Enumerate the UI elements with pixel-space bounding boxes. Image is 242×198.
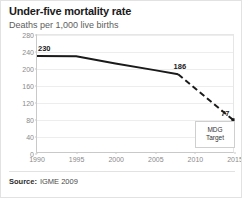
x-tick-mark bbox=[76, 152, 77, 154]
x-tick-label: 1990 bbox=[29, 156, 45, 163]
data-point-label: 77 bbox=[221, 110, 229, 118]
chart-subtitle: Deaths per 1,000 live births bbox=[9, 19, 235, 31]
source-label: Source: bbox=[9, 177, 37, 186]
chart-card: Under-five mortality rate Deaths per 1,0… bbox=[0, 0, 242, 198]
mdg-callout-line-1: MDG bbox=[198, 126, 232, 134]
x-tick-mark bbox=[116, 152, 117, 154]
source-value: IGME 2009 bbox=[40, 177, 78, 186]
page-title: Under-five mortality rate bbox=[9, 5, 235, 18]
x-tick-mark bbox=[37, 152, 38, 154]
x-tick-label: 2015 bbox=[227, 156, 242, 163]
mdg-target-callout: MDG Target bbox=[195, 121, 235, 148]
x-tick-label: 2005 bbox=[148, 156, 164, 163]
y-tick-label: 240 bbox=[22, 49, 34, 56]
x-tick-label: 2000 bbox=[108, 156, 124, 163]
y-tick-label: 280 bbox=[22, 32, 34, 39]
x-tick-label: 1995 bbox=[69, 156, 85, 163]
y-tick-label: 200 bbox=[22, 66, 34, 73]
plot-wrapper: 04080120160200240280 1990199520002005201… bbox=[9, 32, 235, 165]
mdg-callout-line-2: Target bbox=[198, 134, 232, 142]
y-tick-label: 160 bbox=[22, 83, 34, 90]
y-tick-label: 40 bbox=[26, 134, 34, 141]
series-line bbox=[37, 56, 178, 74]
plot-area: 04080120160200240280 1990199520002005201… bbox=[36, 34, 234, 153]
source-note: Source:IGME 2009 bbox=[9, 177, 78, 187]
x-tick-label: 2010 bbox=[188, 156, 204, 163]
x-tick-mark bbox=[235, 152, 236, 154]
chart-header: Under-five mortality rate Deaths per 1,0… bbox=[9, 5, 235, 31]
data-point-label: 230 bbox=[38, 45, 51, 53]
y-tick-label: 80 bbox=[26, 117, 34, 124]
footer-divider bbox=[9, 171, 235, 172]
data-point-label: 186 bbox=[174, 63, 187, 71]
y-tick-label: 120 bbox=[22, 100, 34, 107]
x-tick-mark bbox=[155, 152, 156, 154]
x-tick-mark bbox=[195, 152, 196, 154]
